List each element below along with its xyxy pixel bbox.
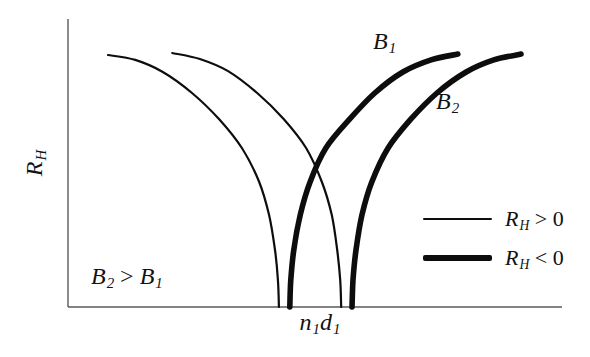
label-segment: B bbox=[140, 263, 155, 289]
label-segment: B bbox=[373, 28, 388, 54]
label-segment: 1 bbox=[313, 321, 320, 337]
legend-label-rh-negative: RH < 0 bbox=[505, 247, 564, 269]
curve-B2-positive-branch bbox=[172, 53, 341, 307]
label-segment: H bbox=[519, 218, 529, 233]
label-segment: H bbox=[33, 150, 49, 161]
curve-label-b1: B1 bbox=[373, 29, 396, 53]
curve-label-b2: B2 bbox=[436, 89, 459, 113]
label-segment: 2 bbox=[452, 100, 459, 116]
label-segment: H bbox=[519, 257, 529, 272]
label-segment: R bbox=[21, 162, 47, 177]
label-segment: R bbox=[505, 245, 518, 270]
label-segment: B bbox=[436, 88, 451, 114]
label-segment: B bbox=[91, 263, 106, 289]
label-segment: < 0 bbox=[529, 245, 563, 270]
legend-item-rh-positive: RH > 0 bbox=[423, 205, 583, 233]
legend-label-rh-positive: RH > 0 bbox=[505, 208, 564, 230]
y-axis-label: RH bbox=[22, 118, 52, 208]
label-segment: > 0 bbox=[529, 206, 563, 231]
thin-line-swatch bbox=[423, 218, 492, 220]
hall-coefficient-figure: RH B1 B2 B2 > B1 n1d1 RH > 0 RH < 0 bbox=[0, 0, 590, 357]
label-segment: 1 bbox=[389, 40, 396, 56]
condition-annotation: B2 > B1 bbox=[91, 264, 163, 288]
label-segment: n bbox=[300, 309, 312, 335]
x-axis-tick-label: n1d1 bbox=[288, 310, 352, 334]
label-segment: R bbox=[505, 206, 518, 231]
label-segment: 2 bbox=[107, 275, 114, 291]
thick-line-swatch bbox=[423, 255, 492, 261]
label-segment: 1 bbox=[155, 275, 162, 291]
label-segment: 1 bbox=[333, 321, 340, 337]
legend-item-rh-negative: RH < 0 bbox=[423, 244, 583, 272]
legend: RH > 0 RH < 0 bbox=[423, 205, 583, 283]
plot-canvas bbox=[0, 0, 590, 357]
label-segment: > bbox=[114, 263, 140, 289]
label-segment: d bbox=[320, 309, 332, 335]
